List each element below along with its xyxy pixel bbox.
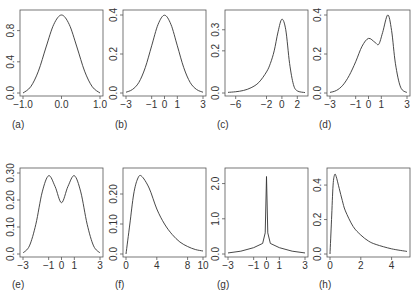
x-tick-label: 3 [404, 99, 410, 110]
x-tick-label: −2 [261, 99, 273, 110]
density-curve [126, 15, 203, 92]
plot-frame [327, 168, 410, 257]
x-tick-label: −1 [43, 260, 55, 271]
panel-caption: (h) [319, 279, 331, 290]
y-tick-label: 0.20 [5, 190, 16, 210]
density-curve [23, 176, 100, 253]
chart-panel-g: −3−10130.01.02.0(g) [210, 168, 308, 290]
x-tick-label: −6 [230, 99, 242, 110]
y-tick-label: 0.4 [5, 54, 16, 68]
x-tick-label: 0 [327, 260, 333, 271]
y-tick-label: 0.0 [108, 247, 119, 261]
y-tick-label: 0.0 [210, 247, 221, 261]
y-tick-label: 0.20 [108, 184, 119, 204]
y-tick-label: 0.2 [210, 43, 221, 57]
x-tick-label: −3 [222, 260, 234, 271]
x-tick-label: 1.0 [93, 99, 107, 110]
x-tick-label: 0 [279, 99, 285, 110]
chart-panel-b: −3−10130.00.20.4(b) [108, 8, 206, 130]
panel-caption: (e) [12, 279, 24, 290]
x-tick-label: 0 [123, 260, 129, 271]
x-tick-label: 1 [277, 260, 283, 271]
y-tick-label: 0.0 [5, 86, 16, 100]
y-tick-label: 0.4 [312, 8, 323, 22]
chart-panel-d: −3−10130.00.20.4(d) [312, 8, 410, 130]
y-tick-label: 0.2 [312, 47, 323, 61]
plot-frame [123, 10, 206, 96]
x-tick-label: 3 [200, 99, 206, 110]
y-tick-label: 0.30 [5, 163, 16, 183]
x-tick-label: 10 [197, 260, 209, 271]
x-tick-label: 4 [154, 260, 160, 271]
y-tick-label: 2.0 [210, 176, 221, 190]
y-tick-label: 0.4 [312, 178, 323, 192]
panel-caption: (f) [115, 279, 124, 290]
x-tick-label: 4 [389, 260, 395, 271]
y-tick-label: 0.0 [108, 86, 119, 100]
density-curve [126, 175, 203, 254]
x-tick-label: −1 [350, 99, 362, 110]
chart-panel-a: −1.00.01.00.00.40.8(a) [5, 10, 107, 130]
plot-frame [20, 168, 103, 257]
x-tick-label: −1 [248, 260, 260, 271]
chart-panel-e: −3−10130.00.100.200.30(e) [5, 163, 103, 290]
x-tick-label: −3 [120, 99, 132, 110]
x-tick-label: 0 [264, 260, 270, 271]
y-tick-label: 0.10 [108, 214, 119, 234]
x-tick-label: 2 [295, 99, 301, 110]
density-curve [330, 174, 407, 254]
y-tick-label: 1.0 [210, 211, 221, 225]
x-tick-label: −3 [17, 260, 29, 271]
figure-canvas: −1.00.01.00.00.40.8(a)−3−10130.00.20.4(b… [0, 0, 419, 303]
x-tick-label: −3 [324, 99, 336, 110]
y-tick-label: 0.10 [5, 217, 16, 237]
x-tick-label: 3 [97, 260, 103, 271]
x-tick-label: 1 [72, 260, 78, 271]
density-curve [330, 15, 407, 93]
x-tick-label: 8 [185, 260, 191, 271]
y-tick-label: 0.2 [108, 47, 119, 61]
x-tick-label: 0 [366, 99, 372, 110]
plot-frame [123, 168, 206, 257]
x-tick-label: 1 [379, 99, 385, 110]
panel-caption: (d) [319, 119, 331, 130]
x-tick-label: 0.0 [55, 99, 69, 110]
y-tick-label: 0.0 [312, 247, 323, 261]
chart-panel-h: 0240.00.20.4(h) [312, 168, 410, 290]
x-tick-label: 1 [175, 99, 181, 110]
x-tick-label: 0 [162, 99, 168, 110]
density-curve [228, 19, 305, 92]
x-tick-label: 2 [358, 260, 364, 271]
x-tick-label: 3 [302, 260, 308, 271]
plot-frame [327, 10, 410, 96]
y-tick-label: 0.4 [108, 8, 119, 22]
panel-caption: (g) [217, 279, 229, 290]
y-tick-label: 0.0 [5, 247, 16, 261]
x-tick-label: −1 [146, 99, 158, 110]
panel-caption: (b) [115, 119, 127, 130]
density-curve [228, 177, 305, 253]
x-tick-label: 0 [59, 260, 65, 271]
plot-frame [20, 10, 103, 96]
plot-frame [225, 10, 308, 96]
y-tick-label: 0.0 [312, 86, 323, 100]
density-curve [23, 15, 100, 93]
chart-panel-f: 048100.00.100.20(f) [108, 168, 209, 290]
y-tick-label: 0.8 [5, 23, 16, 37]
y-tick-label: 0.2 [312, 212, 323, 226]
panel-caption: (c) [217, 119, 229, 130]
y-tick-label: 0.3 [210, 22, 221, 36]
panel-caption: (a) [12, 119, 24, 130]
y-tick-label: 0.0 [210, 86, 221, 100]
x-tick-label: −1.0 [13, 99, 33, 110]
chart-panel-c: −6−2020.00.20.3(c) [210, 10, 308, 130]
